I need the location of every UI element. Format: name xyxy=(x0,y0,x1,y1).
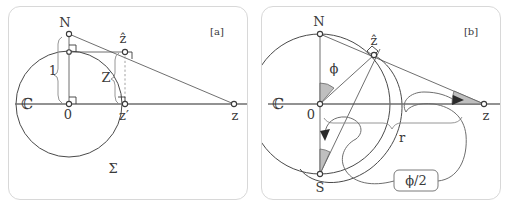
callout-arrow-stem-south xyxy=(325,117,361,139)
panel-b-diagram: ϕ/2 N S ẑ ℂ 0 z ϕ r [b] xyxy=(262,7,502,201)
point-origin-b xyxy=(317,101,322,106)
label-origin-a: 0 xyxy=(64,107,72,122)
callout-curve-to-z-angle xyxy=(406,104,466,181)
label-south-pole: S xyxy=(316,180,325,195)
label-z-prime-a: z′ xyxy=(119,108,129,123)
point-south-pole xyxy=(317,171,322,176)
point-z xyxy=(231,101,236,106)
panel-a-diagram: N ẑ ℂ 0 z′ z 1 Z Σ [a] xyxy=(9,7,249,201)
point-origin xyxy=(66,101,71,106)
label-z-b: z xyxy=(483,108,490,123)
label-radius-r: r xyxy=(399,130,406,145)
point-z-b xyxy=(481,101,486,106)
label-height-z: Z xyxy=(101,70,110,85)
panel-tag-b: [b] xyxy=(464,26,478,37)
callout-arrow-stem-z xyxy=(404,92,454,112)
label-complex-plane-b: ℂ xyxy=(272,95,284,113)
label-origin-b: 0 xyxy=(307,107,315,122)
label-half-phi: ϕ/2 xyxy=(405,173,427,188)
label-z-hat-b: ẑ xyxy=(371,33,378,48)
label-complex-plane-a: ℂ xyxy=(21,95,33,113)
point-z-hat-b xyxy=(371,52,376,57)
label-z-hat-a: ẑ xyxy=(120,31,127,46)
callout-curve-to-south-angle xyxy=(342,139,394,184)
point-z-hat xyxy=(122,49,127,54)
panel-a: N ẑ ℂ 0 z′ z 1 Z Σ [a] xyxy=(8,6,248,200)
point-north-pole xyxy=(66,31,71,36)
label-unit-length: 1 xyxy=(49,63,57,78)
point-foot-of-n xyxy=(67,50,72,55)
label-north-pole-a: N xyxy=(59,15,70,30)
tilted-circle-arc xyxy=(300,55,402,183)
figure-root: N ẑ ℂ 0 z′ z 1 Z Σ [a] xyxy=(0,0,510,207)
point-north-pole-b xyxy=(317,31,322,36)
projection-ray-n-to-z xyxy=(69,34,234,104)
brace-radius-r xyxy=(324,117,462,129)
point-z-prime xyxy=(122,101,127,106)
panel-tag-a: [a] xyxy=(210,26,224,37)
radius-origin-to-zhat xyxy=(320,55,374,104)
label-north-pole-b: N xyxy=(313,14,324,29)
angle-sector-half-phi-at-south xyxy=(320,149,330,174)
label-phi-angle: ϕ xyxy=(330,61,339,76)
callout-arrowhead-south xyxy=(320,129,330,141)
label-z-a: z xyxy=(232,108,239,123)
panel-b: ϕ/2 N S ẑ ℂ 0 z ϕ r [b] xyxy=(261,6,501,200)
label-sphere-sigma: Σ xyxy=(108,161,117,176)
